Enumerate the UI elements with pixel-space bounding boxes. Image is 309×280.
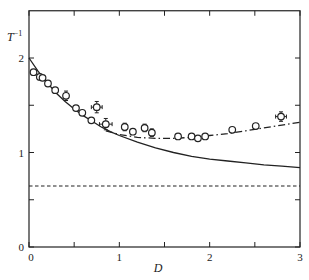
open-circle-marker <box>229 127 236 134</box>
open-circle-marker <box>63 93 70 100</box>
x-tick-label: 2 <box>207 251 213 263</box>
open-circle-marker <box>252 123 259 130</box>
open-circle-marker <box>202 133 209 140</box>
open-circle-marker <box>141 125 148 132</box>
open-circle-marker <box>149 129 156 136</box>
data-point <box>141 124 148 132</box>
data-point <box>39 75 46 82</box>
chart: 0123012 D T−1 <box>0 0 309 280</box>
data-point <box>202 133 209 140</box>
data-point <box>149 129 156 137</box>
data-point <box>79 110 86 117</box>
x-tick-label: 1 <box>117 251 123 263</box>
y-axis-title-sup: −1 <box>14 29 23 38</box>
plot-frame <box>29 11 300 247</box>
open-circle-marker <box>45 80 52 87</box>
data-point <box>175 133 182 140</box>
data-point <box>252 123 259 130</box>
y-tick-label: 0 <box>19 241 25 253</box>
curves <box>29 58 300 186</box>
open-circle-marker <box>102 121 109 128</box>
data-point <box>188 133 195 140</box>
open-circle-marker <box>175 133 182 140</box>
y-tick-label: 1 <box>19 147 25 159</box>
open-circle-marker <box>73 105 80 112</box>
open-circle-marker <box>121 124 128 131</box>
data-point <box>91 101 102 112</box>
data-point <box>276 112 287 121</box>
y-axis-title: T−1 <box>7 29 22 44</box>
open-circle-marker <box>39 75 46 82</box>
open-circle-marker <box>88 117 95 124</box>
open-circle-marker <box>130 128 137 135</box>
data-point <box>52 87 59 94</box>
open-circle-marker <box>188 133 195 140</box>
data-point <box>99 118 112 129</box>
data-point <box>30 69 37 76</box>
x-axis-title: D <box>153 261 163 275</box>
data-point <box>130 128 137 135</box>
data-point <box>88 117 95 124</box>
open-circle-marker <box>30 69 37 76</box>
data-point <box>73 105 80 112</box>
open-circle-marker <box>79 110 86 117</box>
open-circle-marker <box>278 113 285 120</box>
x-tick-label: 0 <box>28 251 34 263</box>
tick-labels: 0123012 <box>19 52 304 263</box>
open-circle-marker <box>52 87 59 94</box>
open-circle-marker <box>93 104 100 111</box>
open-circle-marker <box>195 135 202 142</box>
data-point <box>195 135 202 142</box>
y-tick-label: 2 <box>19 52 25 64</box>
axis-ticks <box>29 11 300 247</box>
theory-solid-curve <box>29 58 300 168</box>
x-tick-label: 3 <box>297 251 303 263</box>
data-point <box>63 91 70 100</box>
plot-border <box>29 11 300 247</box>
data-point <box>45 80 52 87</box>
data-point <box>121 123 128 131</box>
data-point <box>229 127 236 134</box>
